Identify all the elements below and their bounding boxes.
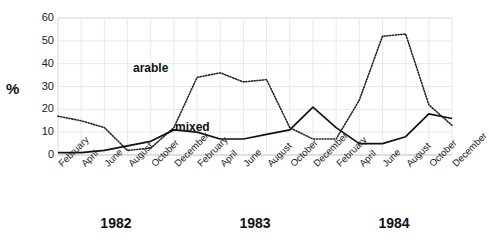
gridlines bbox=[58, 18, 452, 155]
series-annotation-arable: arable bbox=[133, 61, 168, 75]
series-line-arable bbox=[58, 34, 452, 150]
series-annotation-mixed: mixed bbox=[175, 120, 210, 134]
year-group-label: 1983 bbox=[225, 215, 285, 231]
year-group-label: 1982 bbox=[86, 215, 146, 231]
year-group-label: 1984 bbox=[364, 215, 424, 231]
series-lines bbox=[58, 34, 452, 153]
